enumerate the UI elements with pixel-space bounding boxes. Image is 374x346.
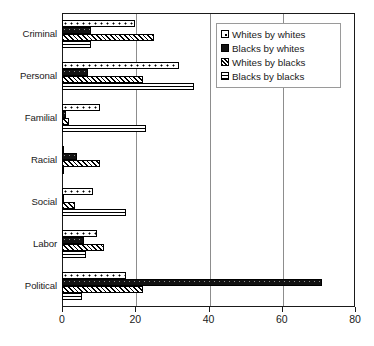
bar xyxy=(62,293,82,300)
bar xyxy=(62,104,100,111)
bar xyxy=(62,160,100,167)
legend-item: Blacks by whites xyxy=(221,41,336,55)
y-axis-category-label: Racial xyxy=(0,155,57,165)
y-axis-category-label: Political xyxy=(0,281,57,291)
x-axis-tick xyxy=(355,307,356,312)
bar xyxy=(62,209,126,216)
x-axis-tick xyxy=(135,307,136,312)
x-axis-tick xyxy=(62,307,63,312)
legend-label: Blacks by whites xyxy=(232,43,304,54)
legend-label: Blacks by blacks xyxy=(232,71,304,82)
legend-item: Blacks by blacks xyxy=(221,69,336,83)
bar xyxy=(62,62,179,69)
legend-swatch-whites-by-blacks-icon xyxy=(221,58,229,66)
bar xyxy=(62,69,88,76)
chart-legend: Whites by whites Blacks by whites Whites… xyxy=(216,23,341,88)
y-axis-category-label: Familial xyxy=(0,113,57,123)
bar xyxy=(62,41,91,48)
bar xyxy=(62,153,77,160)
x-axis-tick-label: 20 xyxy=(129,313,141,325)
bar xyxy=(62,27,91,34)
x-axis-tick xyxy=(282,307,283,312)
y-axis-category-labels: CriminalPersonalFamilialRacialSocialLabo… xyxy=(0,13,57,307)
bar xyxy=(62,230,97,237)
x-axis-tick xyxy=(209,307,210,312)
bar-chart: CriminalPersonalFamilialRacialSocialLabo… xyxy=(0,0,374,346)
x-axis-tick-label: 40 xyxy=(203,313,215,325)
bar xyxy=(62,188,93,195)
legend-item: Whites by whites xyxy=(221,27,336,41)
y-axis-category-label: Personal xyxy=(0,71,57,81)
legend-swatch-blacks-by-blacks-icon xyxy=(221,72,229,80)
y-axis-category-label: Labor xyxy=(0,239,57,249)
bar xyxy=(62,244,104,251)
x-axis-tick-labels: 020406080 xyxy=(0,313,374,331)
bar xyxy=(62,20,135,27)
bar xyxy=(62,202,75,209)
bar xyxy=(62,111,66,118)
bar xyxy=(62,83,194,90)
bar xyxy=(62,279,322,286)
x-axis-tick-label: 0 xyxy=(59,313,65,325)
legend-label: Whites by blacks xyxy=(232,57,306,68)
legend-swatch-whites-by-whites-icon xyxy=(221,30,229,38)
y-axis-category-label: Criminal xyxy=(0,29,57,39)
x-axis-tick-label: 60 xyxy=(276,313,288,325)
legend-label: Whites by whites xyxy=(232,29,306,40)
legend-item: Whites by blacks xyxy=(221,55,336,69)
x-axis-tick-label: 80 xyxy=(349,313,361,325)
bar xyxy=(62,167,64,174)
bar xyxy=(62,146,64,153)
bar xyxy=(62,195,64,202)
bar xyxy=(62,34,154,41)
bar xyxy=(62,272,126,279)
y-axis-category-label: Social xyxy=(0,197,57,207)
bar xyxy=(62,251,86,258)
bar xyxy=(62,76,143,83)
bar xyxy=(62,237,84,244)
legend-swatch-blacks-by-whites-icon xyxy=(221,44,229,52)
bar xyxy=(62,286,143,293)
bar xyxy=(62,125,146,132)
bar xyxy=(62,118,69,125)
